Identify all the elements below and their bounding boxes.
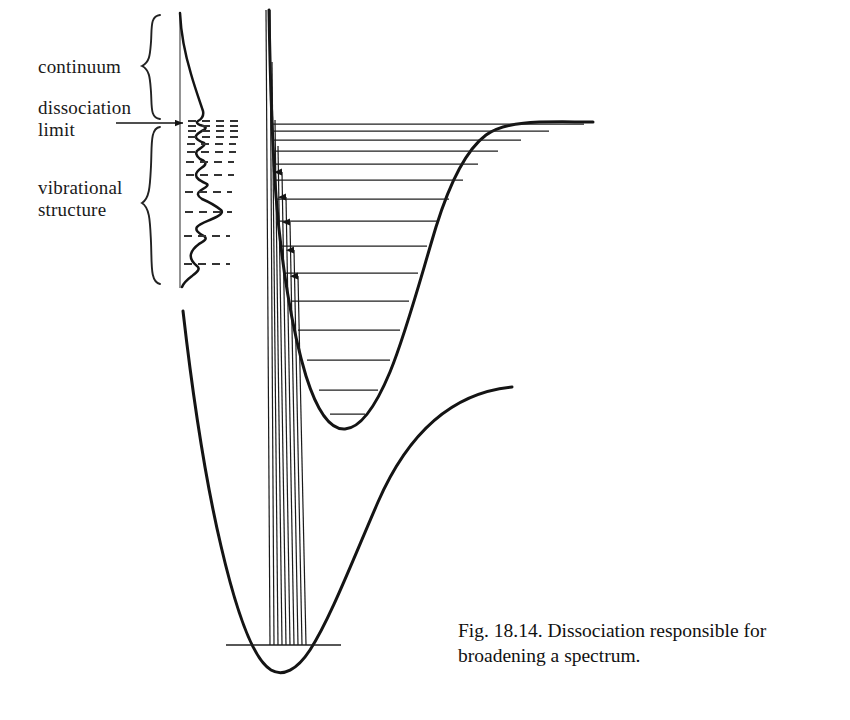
transition-lines bbox=[266, 10, 306, 645]
caption-line-2: broadening a spectrum. bbox=[458, 643, 848, 668]
spectrum-panel bbox=[116, 12, 240, 288]
upper-vibrational-levels bbox=[271, 124, 584, 414]
label-vibrational-structure: vibrational structure bbox=[38, 177, 123, 222]
transition-line bbox=[294, 250, 302, 645]
label-vibrational-line1: vibrational bbox=[38, 177, 123, 198]
spectrum-trace bbox=[180, 13, 222, 287]
label-dissociation-line2: limit bbox=[38, 119, 75, 140]
transition-line bbox=[282, 172, 290, 645]
label-continuum: continuum bbox=[38, 56, 121, 78]
figure-root: continuum dissociation limit vibrational… bbox=[0, 0, 850, 720]
label-vibrational-line2: structure bbox=[38, 199, 106, 220]
label-dissociation-limit: dissociation limit bbox=[38, 97, 131, 142]
figure-caption: Fig. 18.14. Dissociation responsible for… bbox=[458, 618, 848, 669]
upper-state-group bbox=[269, 10, 593, 429]
vibrational-brace bbox=[142, 127, 160, 284]
spectrum-band-dashes bbox=[184, 121, 240, 264]
transition-line bbox=[266, 10, 270, 645]
caption-line-1: Fig. 18.14. Dissociation responsible for bbox=[458, 618, 848, 643]
transition-line bbox=[298, 276, 306, 645]
label-dissociation-line1: dissociation bbox=[38, 97, 131, 118]
transition-line bbox=[290, 222, 298, 645]
transition-line bbox=[286, 197, 294, 645]
upper-potential-curve bbox=[269, 10, 593, 429]
continuum-brace bbox=[142, 15, 160, 119]
